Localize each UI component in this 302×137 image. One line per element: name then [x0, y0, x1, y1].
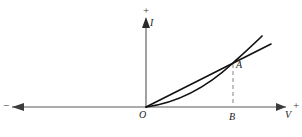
horizontal-axis-left-arrow-icon [12, 103, 24, 111]
vertical-axis-plus-sign: + [143, 5, 149, 16]
iv-characteristic-figure: + I + − V O A B [0, 0, 302, 137]
chord-line-through-a [146, 44, 271, 107]
nonlinear-characteristic-curve [146, 36, 262, 107]
operating-point-label: A [236, 60, 242, 70]
origin-point-label: O [139, 110, 146, 120]
vertical-axis-up-arrow-icon [142, 17, 150, 28]
voltage-axis-label: V [285, 110, 291, 120]
horizontal-axis-minus-sign: − [3, 100, 9, 111]
horizontal-axis-plus-sign: + [293, 100, 299, 111]
voltage-point-label: B [229, 112, 235, 122]
current-axis-label: I [150, 18, 153, 28]
